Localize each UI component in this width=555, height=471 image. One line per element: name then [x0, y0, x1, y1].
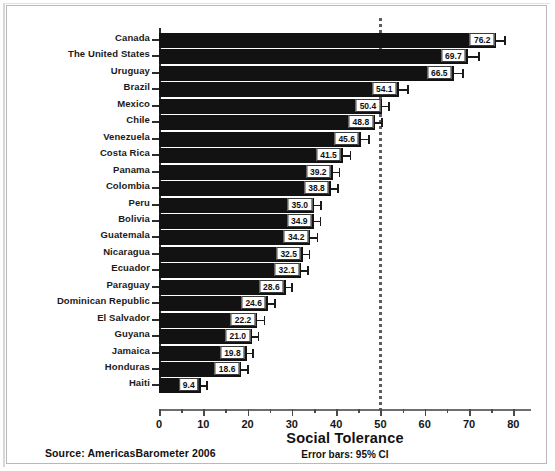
error-bar-cap [337, 184, 339, 193]
category-label: Ecuador [111, 262, 150, 273]
category-label: Venezuela [103, 131, 150, 142]
bar-row: Guyana21.0 [159, 329, 531, 344]
x-axis-line [159, 409, 531, 411]
bar-row: Chile48.8 [159, 115, 531, 130]
error-bar-cap [291, 283, 293, 292]
category-label: Dominican Republic [57, 295, 150, 306]
y-axis-tick [152, 253, 159, 255]
bar [159, 99, 382, 114]
value-label: 9.4 [179, 378, 199, 391]
y-axis-tick [152, 335, 159, 337]
y-axis-tick [152, 55, 159, 57]
x-tick-minor [181, 409, 183, 413]
x-tick-major [425, 409, 427, 416]
error-bar-cap [478, 52, 480, 61]
error-bar-cap [206, 381, 208, 390]
error-bar-whisker [361, 139, 368, 141]
error-bar-whisker [468, 56, 479, 58]
x-tick-minor [314, 409, 316, 413]
value-label: 48.8 [349, 115, 374, 128]
bar-row: Jamaica19.8 [159, 346, 531, 361]
x-tick-label: 80 [507, 418, 519, 430]
value-label: 38.8 [304, 181, 329, 194]
bar-row: Guatemala34.2 [159, 230, 531, 245]
bar-row: Bolivia34.9 [159, 214, 531, 229]
category-label: Peru [128, 197, 150, 208]
bar-row: Haiti9.4 [159, 378, 531, 393]
x-tick-major [248, 409, 250, 416]
category-label: Honduras [105, 361, 150, 372]
error-bar-cap [274, 299, 276, 308]
category-label: Uruguay [111, 65, 150, 76]
value-label: 19.8 [220, 346, 245, 359]
x-tick-minor [403, 409, 405, 413]
category-label: Nicaragua [103, 246, 150, 257]
error-bar-cap [264, 316, 266, 325]
category-label: Mexico [117, 98, 150, 109]
value-label: 22.2 [231, 313, 256, 326]
category-label: Canada [115, 32, 150, 43]
category-label: Haiti [129, 377, 150, 388]
bar [159, 49, 468, 64]
x-tick-label: 70 [463, 418, 475, 430]
x-tick-label: 20 [241, 418, 253, 430]
value-label: 24.6 [241, 296, 266, 309]
category-label: Bolivia [118, 213, 150, 224]
error-bar-cap [381, 118, 383, 127]
bar [159, 33, 496, 48]
value-label: 28.6 [259, 280, 284, 293]
x-tick-minor [225, 409, 227, 413]
bar-row: Brazil54.1 [159, 82, 531, 97]
bar-row: Costa Rica41.5 [159, 148, 531, 163]
error-bar-cap [388, 102, 390, 111]
bar-row: Canada76.2 [159, 33, 531, 48]
x-tick-minor [447, 409, 449, 413]
value-label: 39.2 [306, 165, 331, 178]
bar-row: El Salvador22.2 [159, 313, 531, 328]
bar [159, 82, 399, 97]
bar-row: Panama39.2 [159, 165, 531, 180]
bar-row: Nicaragua32.5 [159, 247, 531, 262]
value-label: 35.0 [287, 198, 312, 211]
bar-row: The United States69.7 [159, 49, 531, 64]
x-tick-label: 60 [419, 418, 431, 430]
value-label: 41.5 [316, 148, 341, 161]
plot-area: Canada76.2The United States69.7Uruguay66… [159, 28, 531, 413]
error-bar-whisker [399, 89, 407, 91]
value-label: 34.2 [284, 230, 309, 243]
error-bar-cap [339, 168, 341, 177]
bar [159, 132, 361, 147]
y-axis-tick [152, 269, 159, 271]
error-bar-cap [407, 85, 409, 94]
category-label: Paraguay [106, 279, 150, 290]
bar-row: Paraguay28.6 [159, 280, 531, 295]
category-label: Colombia [106, 180, 150, 191]
x-tick-major [380, 409, 382, 416]
error-bar-cap [350, 151, 352, 160]
x-tick-major [336, 409, 338, 416]
value-label: 34.9 [287, 214, 312, 227]
x-axis-title: Social Tolerance [159, 430, 531, 446]
y-axis-tick [152, 236, 159, 238]
x-tick-minor [358, 409, 360, 413]
error-bar-whisker [496, 40, 504, 42]
bar-row: Uruguay66.5 [159, 66, 531, 81]
bar-row: Colombia38.8 [159, 181, 531, 196]
y-axis-tick [152, 384, 159, 386]
y-axis-tick [152, 105, 159, 107]
x-tick-label: 10 [197, 418, 209, 430]
value-label: 18.6 [215, 362, 240, 375]
error-bar-cap [309, 250, 311, 259]
x-tick-label: 30 [286, 418, 298, 430]
x-tick-minor [491, 409, 493, 413]
bar-row: Venezuela45.6 [159, 132, 531, 147]
bar-row: Honduras18.6 [159, 362, 531, 377]
x-tick-major [469, 409, 471, 416]
y-axis-tick [152, 319, 159, 321]
y-axis-tick [152, 171, 159, 173]
error-bar-cap [320, 217, 322, 226]
error-bar-cap [462, 69, 464, 78]
error-bar-cap [307, 266, 309, 275]
x-tick-major [513, 409, 515, 416]
error-bar-cap [368, 135, 370, 144]
